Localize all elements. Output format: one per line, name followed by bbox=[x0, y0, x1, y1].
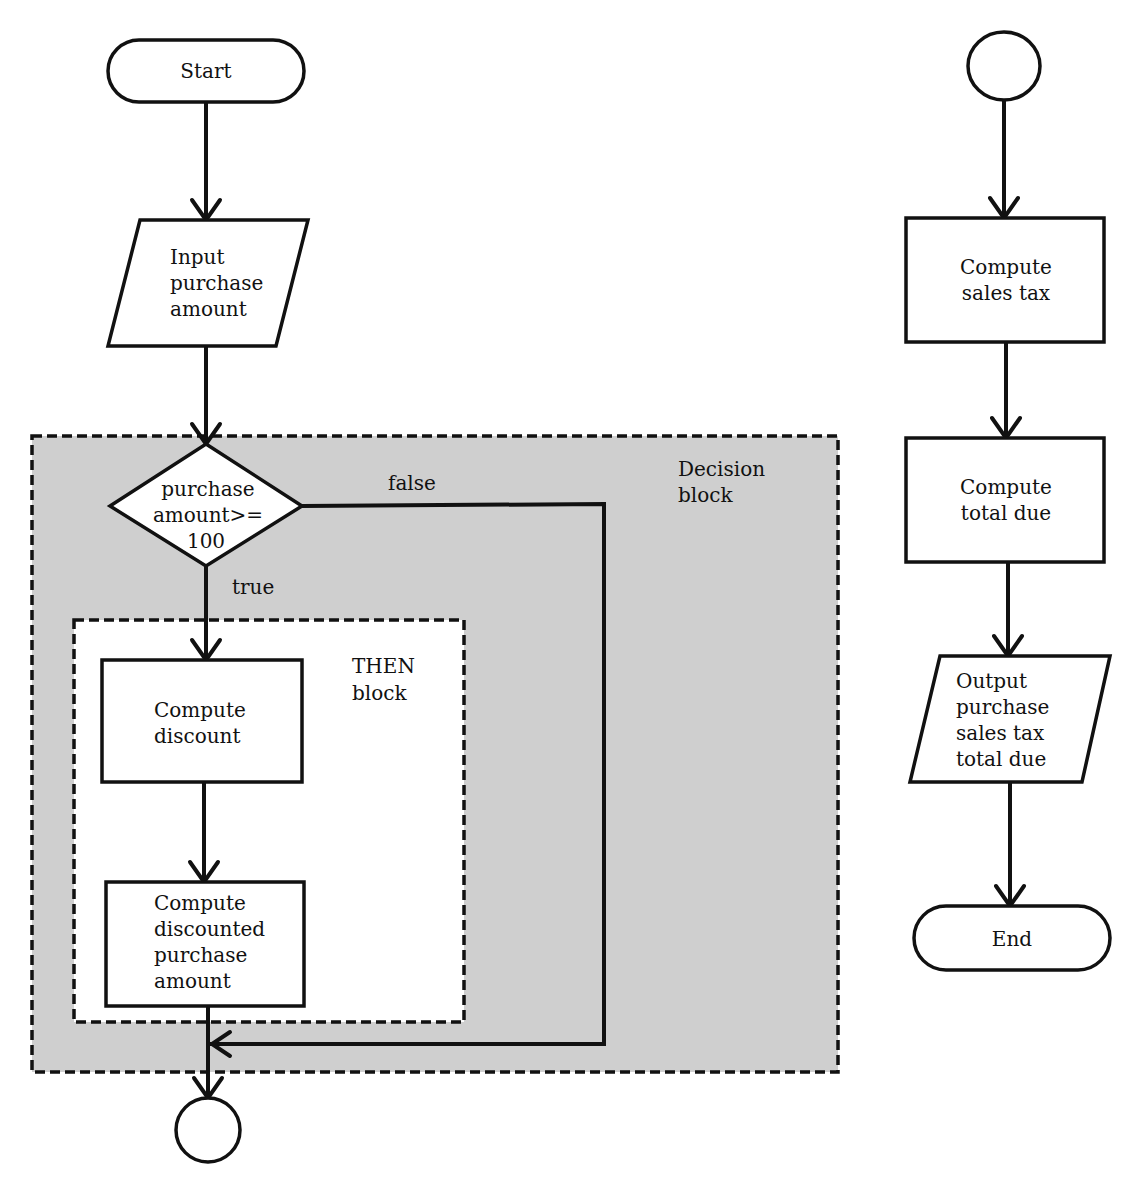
then-block-label-line2: block bbox=[352, 681, 407, 705]
decision-block-label-line1: Decision bbox=[678, 457, 765, 481]
connector-in-circle bbox=[968, 32, 1040, 100]
then-block-label-line1: THEN bbox=[352, 654, 415, 678]
compute-discounted-line1: Compute bbox=[154, 891, 246, 915]
output-line3: sales tax bbox=[956, 721, 1045, 745]
decision-label-line2: amount>= bbox=[153, 503, 263, 527]
false-label: false bbox=[388, 471, 436, 495]
output-line1: Output bbox=[956, 669, 1027, 693]
compute-tax-line2: sales tax bbox=[962, 281, 1051, 305]
input-label-line1: Input bbox=[170, 245, 225, 269]
output-line2: purchase bbox=[956, 695, 1049, 719]
flowchart: Decision block THEN block Start Input pu… bbox=[0, 0, 1140, 1184]
output-line4: total due bbox=[956, 747, 1046, 771]
start-label: Start bbox=[180, 59, 231, 83]
compute-discount-line2: discount bbox=[154, 724, 241, 748]
decision-label-line1: purchase bbox=[161, 477, 254, 501]
compute-total-line1: Compute bbox=[960, 475, 1052, 499]
connector-out-circle bbox=[176, 1098, 240, 1162]
input-label-line3: amount bbox=[170, 297, 247, 321]
decision-label-line3: 100 bbox=[187, 529, 225, 553]
compute-discounted-line3: purchase bbox=[154, 943, 247, 967]
compute-total-due-box bbox=[906, 438, 1104, 562]
true-label: true bbox=[232, 575, 274, 599]
compute-discount-line1: Compute bbox=[154, 698, 246, 722]
compute-tax-line1: Compute bbox=[960, 255, 1052, 279]
compute-discounted-line2: discounted bbox=[154, 917, 265, 941]
decision-block-label-line2: block bbox=[678, 483, 733, 507]
end-label: End bbox=[992, 927, 1032, 951]
compute-discounted-line4: amount bbox=[154, 969, 231, 993]
compute-sales-tax-box bbox=[906, 218, 1104, 342]
compute-total-line2: total due bbox=[961, 501, 1051, 525]
input-label-line2: purchase bbox=[170, 271, 263, 295]
